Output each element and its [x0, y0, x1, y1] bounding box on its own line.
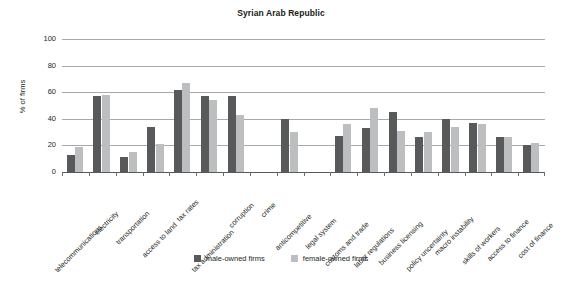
bar-group [92, 39, 115, 172]
chart-title: Syrian Arab Republic [0, 8, 562, 18]
bar-female-owned [531, 143, 539, 172]
legend-swatch-icon [194, 255, 201, 262]
bar-female-owned [478, 124, 486, 172]
bar-male-owned [415, 137, 423, 172]
bar-male-owned [120, 157, 128, 172]
bar-female-owned [75, 147, 83, 172]
bar-female-owned [504, 137, 512, 172]
bar-male-owned [93, 96, 101, 172]
bar-group [334, 39, 357, 172]
bar-group [495, 39, 518, 172]
legend-item: female-owned firms [291, 254, 368, 263]
bar-group [441, 39, 464, 172]
bar-female-owned [156, 144, 164, 172]
x-tick-label: corruption [226, 201, 255, 230]
bar-group [307, 39, 330, 172]
bar-female-owned [397, 131, 405, 172]
x-tick-label: tax administration [189, 228, 235, 274]
y-axis-label: % of firms [18, 62, 27, 132]
bar-chart: Syrian Arab Republic % of firms 02040608… [0, 0, 562, 283]
legend-label: male-owned firms [206, 254, 265, 263]
bar-female-owned [182, 83, 190, 172]
bar-female-owned [129, 152, 137, 172]
bar-group [253, 39, 276, 172]
bar-group [468, 39, 491, 172]
bar-female-owned [290, 132, 298, 172]
bar-group [200, 39, 223, 172]
y-tick-100: 100 [30, 35, 56, 43]
bar-group [388, 39, 411, 172]
y-tick-40: 40 [30, 115, 56, 123]
legend-item: male-owned firms [194, 254, 265, 263]
bar-group [522, 39, 545, 172]
bar-male-owned [147, 127, 155, 172]
legend-label: female-owned firms [303, 254, 368, 263]
bar-male-owned [67, 155, 75, 172]
x-axis-tick-labels: telecommunicationselectricitytransportat… [0, 176, 562, 242]
bar-male-owned [228, 96, 236, 172]
bar-male-owned [362, 128, 370, 172]
bar-male-owned [442, 119, 450, 172]
bar-group [119, 39, 142, 172]
y-tick-0: 0 [30, 168, 56, 176]
bar-male-owned [496, 137, 504, 172]
y-tick-80: 80 [30, 62, 56, 70]
bar-male-owned [335, 136, 343, 172]
bar-group [173, 39, 196, 172]
bar-female-owned [236, 115, 244, 172]
y-tick-20: 20 [30, 141, 56, 149]
x-tick-label: crime [259, 200, 278, 219]
bar-group [227, 39, 250, 172]
bar-female-owned [209, 100, 217, 172]
bar-male-owned [389, 112, 397, 172]
bar-male-owned [174, 90, 182, 172]
chart-legend: male-owned firmsfemale-owned firms [0, 254, 562, 263]
bar-group [414, 39, 437, 172]
bar-male-owned [469, 123, 477, 172]
bar-female-owned [102, 95, 110, 172]
bar-group [361, 39, 384, 172]
bar-female-owned [451, 127, 459, 172]
bar-female-owned [424, 132, 432, 172]
plot-area [62, 39, 545, 172]
bar-female-owned [370, 108, 378, 172]
bar-group [280, 39, 303, 172]
bar-male-owned [523, 145, 531, 172]
x-tick-label: tax rates [175, 198, 201, 224]
bar-group [146, 39, 169, 172]
legend-swatch-icon [291, 255, 298, 262]
bar-group [66, 39, 89, 172]
bar-male-owned [201, 96, 209, 172]
bar-male-owned [281, 119, 289, 172]
y-tick-60: 60 [30, 88, 56, 96]
bar-female-owned [343, 124, 351, 172]
